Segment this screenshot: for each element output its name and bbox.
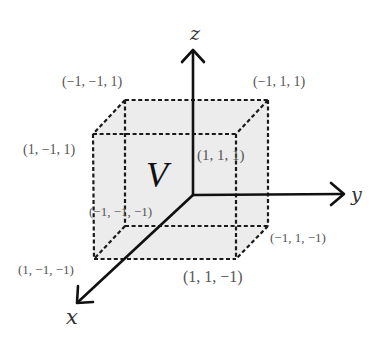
vertex-label-m1-1-m1: (−1, 1, −1) [270,230,326,245]
z-axis-label: z [189,22,201,44]
vertex-label-m1-1-1: (−1, 1, 1) [253,74,306,90]
vertex-label-1-1-m1: (1, 1, −1) [183,268,243,286]
vertex-label-1-m1-1: (1, −1, 1) [23,142,76,158]
vertex-label-m1-m1-m1: (−1, −1, −1) [89,204,152,219]
y-axis-label: y [350,183,362,205]
vertex-label-1-1-1: (1, 1, 1) [197,147,245,164]
cube-coordinate-diagram: z y x V (−1, −1, 1) (−1, 1, 1) (1, −1, 1… [0,0,392,345]
cube-volume [93,100,268,259]
vertex-label-m1-m1-1: (−1, −1, 1) [62,74,122,90]
y-axis [193,194,343,195]
cube-fill [93,100,268,259]
x-axis-label: x [66,305,78,329]
vertex-label-1-m1-m1: (1, −1, −1) [18,262,74,277]
